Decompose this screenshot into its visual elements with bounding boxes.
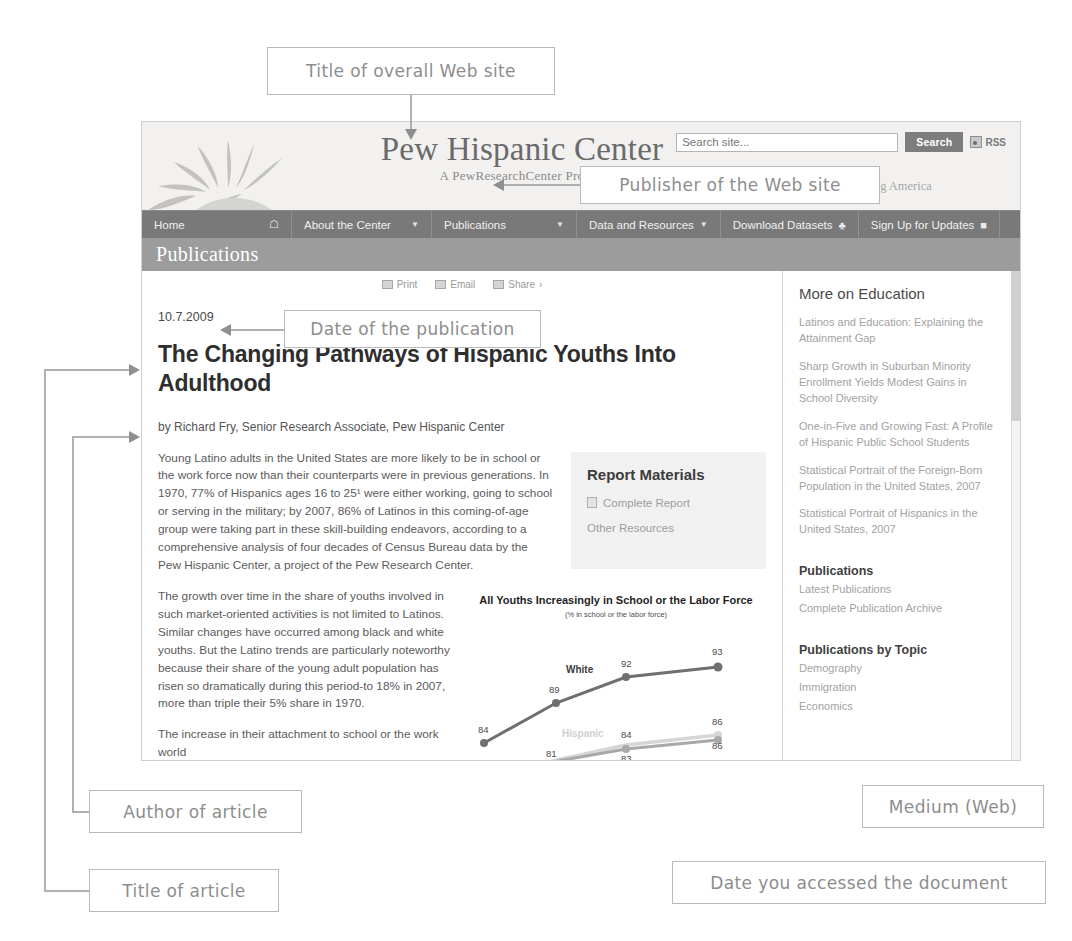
- article-chart: All Youths Increasingly in School or the…: [466, 594, 766, 761]
- nav-item-publications[interactable]: Publications ▼: [432, 211, 577, 238]
- chevron-down-icon: ▼: [556, 220, 564, 229]
- search-bar: Search RSS: [676, 132, 1006, 152]
- callout-author-label: Author of article: [123, 802, 268, 822]
- nav-item-publications-label: Publications: [444, 219, 506, 231]
- article-byline: by Richard Fry, Senior Research Associat…: [158, 420, 766, 434]
- callout-medium-label: Medium (Web): [889, 797, 1018, 817]
- chart-label-white-2007: 93: [712, 646, 723, 657]
- arrow-site-title: [405, 129, 417, 140]
- callout-publisher: Publisher of the Web site: [580, 166, 880, 204]
- main-nav: Home ☖ About the Center ▼ Publications ▼…: [142, 210, 1020, 238]
- sidebar-link-hispanics-portrait[interactable]: Statistical Portrait of Hispanics in the…: [799, 506, 1000, 538]
- callout-article-title: Title of article: [89, 869, 279, 912]
- print-button[interactable]: Print: [382, 279, 418, 290]
- callout-author: Author of article: [89, 790, 302, 833]
- chart-label-black-1990: 83: [621, 753, 632, 761]
- arrow-pub-date: [220, 324, 231, 336]
- scrollbar-thumb[interactable]: [1011, 271, 1020, 421]
- arrow-author: [129, 431, 140, 443]
- report-materials-complete-report-label: Complete Report: [603, 497, 690, 509]
- chart-label-hispanic-2007: 86: [712, 716, 723, 727]
- callout-access-date: Date you accessed the document: [672, 861, 1046, 904]
- callout-medium: Medium (Web): [862, 785, 1044, 828]
- web-page-screenshot: Pew Hispanic Center A PewResearchCenter …: [141, 121, 1021, 761]
- callout-article-title-label: Title of article: [122, 881, 245, 901]
- chart-point: [480, 739, 488, 747]
- print-label: Print: [397, 279, 418, 290]
- sidebar-topics-heading: Publications by Topic: [799, 643, 1000, 657]
- envelope-icon: [435, 280, 446, 289]
- chevron-down-icon: ▼: [700, 220, 708, 229]
- leader-title-c: [44, 369, 130, 371]
- search-input[interactable]: [676, 133, 898, 152]
- callout-access-date-label: Date you accessed the document: [710, 873, 1008, 893]
- report-materials-box: Report Materials Complete Report Other R…: [571, 452, 766, 569]
- document-icon: [587, 497, 597, 508]
- callout-site-title: Title of overall Web site: [267, 47, 555, 95]
- sidebar-link-immigration[interactable]: Immigration: [799, 680, 1000, 696]
- leader-publisher: [503, 184, 581, 186]
- share-button[interactable]: Share ›: [493, 279, 542, 290]
- page-content: Print Email Share › 10.7.2009 The Changi…: [142, 271, 1020, 761]
- arrow-article-title: [129, 364, 140, 376]
- sidebar-link-one-in-five[interactable]: One-in-Five and Growing Fast: A Profile …: [799, 419, 1000, 451]
- chart-subtitle: (% in school or the labor force): [466, 610, 766, 619]
- chart-label-hispanic-1980: 81: [546, 748, 557, 759]
- download-icon: ♣: [839, 219, 846, 231]
- chart-point: [552, 699, 560, 707]
- report-materials-other-resources-label: Other Resources: [587, 522, 674, 534]
- search-button[interactable]: Search: [905, 132, 963, 152]
- email-button[interactable]: Email: [435, 279, 475, 290]
- chart-point: [714, 663, 723, 672]
- sidebar-link-complete-archive[interactable]: Complete Publication Archive: [799, 601, 1000, 617]
- leader-author-c: [72, 436, 130, 438]
- arrow-publisher: [493, 179, 504, 191]
- sidebar-link-economics[interactable]: Economics: [799, 699, 1000, 715]
- nav-item-download-datasets[interactable]: Download Datasets ♣: [721, 211, 859, 238]
- site-name: Pew Hispanic Center: [312, 132, 732, 167]
- chart-point: [622, 745, 630, 753]
- vertical-scrollbar[interactable]: [1011, 271, 1020, 761]
- report-materials-heading: Report Materials: [587, 466, 750, 483]
- home-icon: ☖: [269, 218, 279, 231]
- chart-label-white-1980: 89: [549, 684, 560, 695]
- sidebar-link-demography[interactable]: Demography: [799, 661, 1000, 677]
- leader-title-a: [44, 890, 90, 892]
- report-materials-complete-report[interactable]: Complete Report: [587, 497, 750, 509]
- leader-title-b: [44, 369, 46, 891]
- nav-item-sign-up-for-updates[interactable]: Sign Up for Updates ■: [859, 211, 1000, 238]
- section-title: Publications: [156, 243, 259, 266]
- mail-icon: ■: [980, 219, 987, 231]
- sidebar: More on Education Latinos and Education:…: [782, 271, 1014, 761]
- leader-site-title: [410, 95, 412, 130]
- article-body: Report Materials Complete Report Other R…: [158, 450, 766, 762]
- sidebar-link-suburban-minority[interactable]: Sharp Growth in Suburban Minority Enroll…: [799, 359, 1000, 407]
- sidebar-link-foreign-born-portrait[interactable]: Statistical Portrait of the Foreign-Born…: [799, 463, 1000, 495]
- nav-item-download-label: Download Datasets: [733, 219, 833, 231]
- chart-label-white-1990: 92: [621, 658, 632, 669]
- callout-site-title-label: Title of overall Web site: [306, 61, 516, 81]
- section-banner: Publications: [142, 238, 1020, 271]
- chart-plot: 84 89 92 93 81 84 86 83 86 White Hispani…: [466, 625, 766, 761]
- chevron-down-icon: ▼: [411, 220, 419, 229]
- sidebar-link-latinos-education[interactable]: Latinos and Education: Explaining the At…: [799, 315, 1000, 347]
- nav-item-about-label: About the Center: [304, 219, 391, 231]
- rss-link[interactable]: RSS: [970, 136, 1006, 148]
- chart-label-hispanic-1990: 84: [621, 729, 632, 740]
- sidebar-link-latest-publications[interactable]: Latest Publications: [799, 582, 1000, 598]
- report-materials-other-resources[interactable]: Other Resources: [587, 522, 750, 534]
- chart-label-white-1970: 84: [478, 724, 489, 735]
- leader-author-b: [72, 436, 74, 812]
- article-title: The Changing Pathways of Hispanic Youths…: [158, 340, 718, 398]
- share-label: Share: [508, 279, 535, 290]
- nav-item-data-and-resources[interactable]: Data and Resources ▼: [577, 211, 721, 238]
- nav-item-about-the-center[interactable]: About the Center ▼: [292, 211, 432, 238]
- callout-pub-date: Date of the publication: [284, 310, 541, 348]
- chart-legend-hispanic: Hispanic: [562, 728, 604, 739]
- nav-item-signup-label: Sign Up for Updates: [871, 219, 975, 231]
- nav-item-home[interactable]: Home ☖: [142, 211, 292, 238]
- email-label: Email: [450, 279, 475, 290]
- share-icon: [493, 280, 504, 289]
- sidebar-more-heading: More on Education: [799, 285, 1000, 302]
- leader-author-a: [72, 811, 90, 813]
